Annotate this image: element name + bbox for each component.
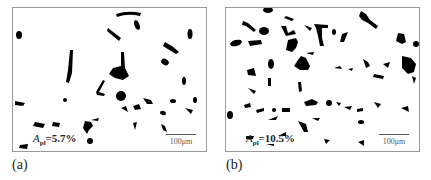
micrograph-panel-a: Apl=5.7% 100μm	[12, 7, 207, 152]
area-symbol: A	[33, 132, 40, 144]
area-fraction-label: Apl=10.5%	[246, 132, 295, 147]
area-symbol: A	[246, 132, 253, 144]
area-value: =10.5%	[259, 132, 296, 144]
area-value: =5.7%	[46, 132, 77, 144]
area-fraction-label: Apl=5.7%	[33, 132, 77, 147]
scale-bar	[166, 134, 196, 135]
scale-bar-label: 100μm	[166, 137, 196, 146]
micrograph-panel-b: Apl=10.5% 100μm	[225, 7, 420, 152]
scale-bar-label: 100μm	[379, 137, 409, 146]
particle-field-b	[226, 8, 420, 152]
scale-bar	[379, 134, 409, 135]
panel-caption-a: (a)	[12, 157, 28, 173]
particle-field-a	[13, 8, 207, 152]
panel-caption-b: (b)	[226, 157, 242, 173]
